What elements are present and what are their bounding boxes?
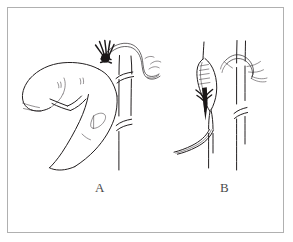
panel-a-illustration bbox=[22, 41, 160, 171]
panel-a-hand bbox=[22, 62, 117, 170]
panel-b-ligated-vessel bbox=[221, 41, 268, 171]
panel-label-b: B bbox=[220, 181, 229, 194]
panel-b-catheter-tubing bbox=[174, 130, 213, 155]
panel-a-suture-thread bbox=[106, 43, 161, 79]
panel-a-suture-knot bbox=[96, 41, 115, 64]
panel-b-cannulated-vessel bbox=[196, 42, 217, 168]
figure-root: .ln { fill: none; stroke: #231f20; strok… bbox=[0, 0, 293, 242]
panel-label-a: A bbox=[95, 181, 105, 194]
panel-a-vessel bbox=[116, 56, 134, 171]
panel-b-illustration bbox=[174, 41, 267, 171]
figure-illustration-canvas: .ln { fill: none; stroke: #231f20; strok… bbox=[0, 0, 293, 242]
